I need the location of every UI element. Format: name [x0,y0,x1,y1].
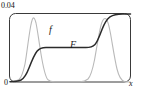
x-axis-label: x [129,80,133,88]
origin-label: 0 [4,79,8,87]
cdf-curve-label: F [70,40,76,50]
density-and-cdf-figure: 0.04 0 x f F [0,0,141,95]
y-axis-max-label: 0.04 [1,2,15,10]
density-curve-label: f [49,25,52,35]
